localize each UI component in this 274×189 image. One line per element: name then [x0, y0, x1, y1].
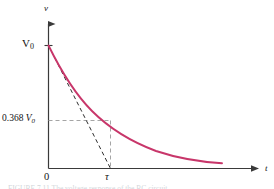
- initial-voltage-label: V0: [22, 38, 34, 51]
- decay-voltage-label: 0.368 V0: [2, 114, 35, 125]
- origin-tick-label: 0: [44, 172, 49, 183]
- figure-caption: FIGURE 7.11 The voltage response of the …: [8, 185, 270, 189]
- decay-voltage-subscript: 0: [32, 117, 36, 125]
- initial-voltage-subscript: 0: [30, 42, 34, 51]
- x-axis-label: t: [265, 164, 268, 173]
- decay-voltage-prefix: 0.368: [2, 113, 26, 123]
- y-axis-label: v: [44, 4, 48, 13]
- figure-container: v t V0 0.368 V0 0 τ FIGURE 7.11 The volt…: [0, 0, 274, 189]
- initial-voltage-symbol: V: [22, 37, 30, 49]
- tau-tick-label: τ: [105, 172, 109, 183]
- decay-plot: [0, 0, 274, 189]
- decay-curve: [49, 46, 223, 164]
